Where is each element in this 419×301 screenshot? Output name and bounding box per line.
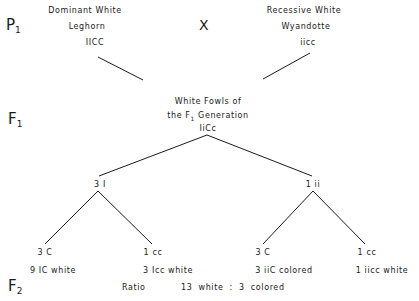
f1-line2-pre: the F xyxy=(167,111,190,120)
gen-sub: 2 xyxy=(17,286,23,296)
f1-description-line2: the F1 Generation xyxy=(167,111,248,122)
gen-sub: 1 xyxy=(17,119,23,129)
generation-label-p1: P1 xyxy=(6,16,21,35)
right-parent-phenotype: Recessive White xyxy=(267,6,341,15)
right-parent-genotype: iicc xyxy=(300,38,316,47)
node-1cc-left-top: 1 cc xyxy=(144,248,163,257)
line-3I-to-1cc xyxy=(98,191,152,244)
generation-label-f1: F1 xyxy=(8,110,22,129)
line-1ii-to-3C xyxy=(263,191,313,244)
left-parent-phenotype: Dominant White xyxy=(48,6,121,15)
line-right-parent-to-f1 xyxy=(263,53,310,79)
node-3C-right-top: 3 C xyxy=(255,248,270,257)
node-3C-right-bottom: 3 iiC colored xyxy=(255,266,313,275)
line-f1-to-1ii xyxy=(207,135,312,176)
gen-letter: F xyxy=(8,110,17,128)
node-1ii: 1 ii xyxy=(306,180,320,189)
gen-letter: F xyxy=(8,277,17,295)
line-1ii-to-1cc xyxy=(313,191,365,244)
gen-sub: 1 xyxy=(15,25,21,35)
left-parent-genotype: IICC xyxy=(86,38,104,47)
node-3C-left-top: 3 C xyxy=(37,248,52,257)
ratio-label: Ratio xyxy=(122,283,146,292)
f1-line2-post: Generation xyxy=(195,111,249,120)
line-f1-to-3I xyxy=(99,135,207,176)
generation-label-f2: F2 xyxy=(8,277,22,296)
line-left-parent-to-f1 xyxy=(98,57,143,80)
line-3I-to-3C xyxy=(45,191,98,244)
left-parent-breed: Leghorn xyxy=(69,22,106,31)
cross-symbol: X xyxy=(199,17,209,33)
f1-genotype: IiCc xyxy=(200,124,217,133)
node-1cc-right-top: 1 cc xyxy=(358,248,377,257)
f1-description-line1: White Fowls of xyxy=(175,97,242,106)
node-3I: 3 I xyxy=(94,180,106,189)
ratio-value: 13 white : 3 colored xyxy=(181,283,285,292)
gen-letter: P xyxy=(6,16,15,34)
node-3C-left-bottom: 9 IC white xyxy=(30,266,76,275)
node-1cc-left-bottom: 3 Icc white xyxy=(143,266,193,275)
right-parent-breed: Wyandotte xyxy=(281,22,330,31)
pedigree-lines xyxy=(0,0,419,301)
node-1cc-right-bottom: 1 iicc white xyxy=(356,266,409,275)
